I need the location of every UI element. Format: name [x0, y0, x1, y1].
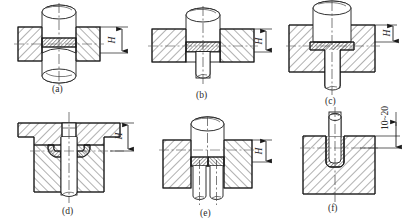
- panel-d: [18, 112, 134, 203]
- panel-caption-e: (e): [200, 208, 211, 218]
- dimension-label-f: 10~20: [380, 106, 390, 130]
- dimension-label-b: H: [254, 38, 264, 45]
- drawing-sheet: (a) (b) (c) (d) (e) (f) H H H H H 10~20: [0, 0, 411, 224]
- figure-svg: [0, 0, 411, 224]
- panel-a: [14, 3, 128, 86]
- panel-e: [159, 116, 272, 205]
- dimension-label-a: H: [107, 37, 117, 44]
- panel-caption-a: (a): [52, 84, 63, 94]
- panel-b: [148, 6, 272, 86]
- panel-caption-c: (c): [325, 96, 336, 106]
- panel-caption-b: (b): [196, 90, 207, 100]
- dimension-label-c: H: [382, 30, 392, 37]
- dimension-label-d: H: [114, 133, 124, 140]
- panel-caption-d: (d): [62, 206, 73, 216]
- panel-caption-f: (f): [328, 203, 338, 213]
- dimension-label-e: H: [254, 148, 264, 155]
- panel-c: [286, 1, 397, 95]
